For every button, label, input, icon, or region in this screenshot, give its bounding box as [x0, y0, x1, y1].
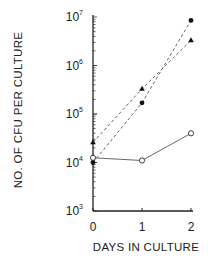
- series-line: [93, 133, 191, 160]
- filled-circle-marker: [189, 18, 194, 23]
- x-axis-title: DAYS IN CULTURE: [93, 241, 199, 253]
- filled-circle-marker: [140, 100, 145, 105]
- filled-triangle-marker: [188, 37, 194, 42]
- x-tick-label: 0: [90, 220, 97, 234]
- filled-circle-marker: [91, 160, 96, 165]
- y-tick-label: 106: [66, 58, 83, 73]
- y-axis-title: NO. OF CFU PER CULTURE: [12, 32, 24, 189]
- series-filled-circle: [91, 18, 194, 165]
- y-tick-label: 104: [66, 155, 83, 170]
- y-tick-label: 103: [66, 203, 83, 218]
- x-tick-label: 1: [139, 220, 146, 234]
- filled-triangle-marker: [139, 86, 145, 91]
- open-circle-marker: [188, 131, 193, 136]
- y-tick-label: 107: [66, 9, 83, 24]
- open-circle-marker: [90, 155, 95, 160]
- cfu-chart: 103104105106107012DAYS IN CULTURENO. OF …: [0, 0, 213, 264]
- series-line: [93, 40, 191, 142]
- open-circle-marker: [139, 158, 144, 163]
- series-open-circle: [90, 131, 193, 163]
- series-filled-triangle: [90, 37, 194, 144]
- axes: [93, 15, 193, 211]
- x-tick-label: 2: [188, 220, 195, 234]
- y-tick-label: 105: [66, 106, 83, 121]
